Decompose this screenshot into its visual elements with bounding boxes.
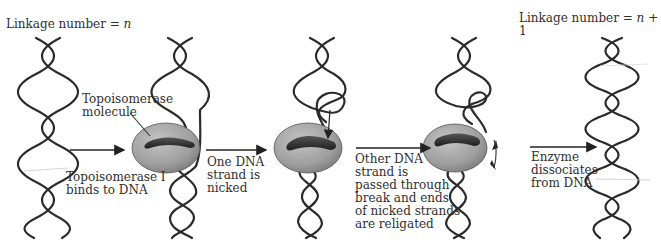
step-4-label: Enzyme dissociates from DNA [531,151,598,190]
linkage-number-right: Linkage number = n + 1 [519,12,661,38]
linkage-number-left: Linkage number = n [6,18,131,31]
linkage-variable-left: n [124,17,132,31]
linkage-label-left: Linkage number = [6,17,124,31]
linkage-label-right: Linkage number = [519,11,637,25]
topoisomerase-diagram: Linkage number = n Linkage number = n + … [0,0,661,250]
dna-helix-relaxed [18,38,78,238]
dna-helix-nicked [274,38,346,238]
topoisomerase-molecule-1 [132,123,200,173]
dna-helix-enzyme-bound [130,38,209,238]
dna-helix-released [586,38,639,238]
step-1-label: Topoisomerase I binds to DNA [66,171,166,197]
step-3-label: Other DNA strand is passed through break… [355,153,460,231]
step-2-label: One DNA strand is nicked [207,156,264,195]
enzyme-label: Topoisomerase molecule [82,93,173,119]
